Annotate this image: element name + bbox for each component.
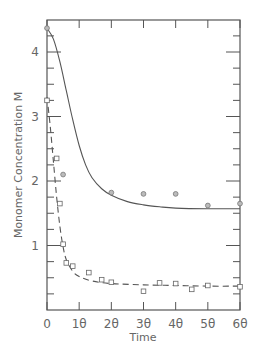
circle-marker — [45, 26, 50, 31]
x-tick-label: 3θ — [136, 317, 151, 331]
square-marker — [109, 280, 114, 285]
y-tick-label: 3 — [31, 110, 39, 124]
circle-marker — [61, 172, 66, 177]
y-tick-labels: 1234 — [31, 45, 39, 253]
fit-curves — [47, 28, 240, 286]
square-marker — [87, 270, 92, 275]
square-marker — [64, 261, 69, 266]
square-marker — [173, 281, 178, 286]
square-marker — [54, 156, 59, 161]
x-tick-label: 0 — [43, 317, 51, 331]
square-marker — [189, 287, 194, 292]
x-tick-label: 6θ — [233, 317, 248, 331]
circle-marker — [238, 201, 243, 206]
circle-marker — [205, 203, 210, 208]
chart: 01θ2θ3θ4θ5θ6θ 1234 Time Monomer Concentr… — [0, 0, 257, 355]
y-tick-label: 1 — [31, 239, 39, 253]
square-marker — [238, 284, 243, 289]
plot-frame — [47, 20, 240, 310]
x-tick-label: 5θ — [200, 317, 215, 331]
y-tick-label: 2 — [31, 174, 39, 188]
y-axis-ticks — [47, 36, 240, 294]
circle-marker — [173, 192, 178, 197]
square-marker — [206, 283, 211, 288]
circle-marker — [141, 192, 146, 197]
square-marker — [157, 281, 162, 286]
y-axis-title: Monomer Concentration M — [12, 92, 25, 238]
square-marker — [61, 242, 66, 247]
data-markers — [45, 26, 243, 294]
x-axis-ticks — [47, 20, 240, 310]
square-marker — [141, 289, 146, 294]
x-tick-labels: 01θ2θ3θ4θ5θ6θ — [43, 317, 247, 331]
x-tick-label: 2θ — [104, 317, 119, 331]
y-tick-label: 4 — [31, 45, 39, 59]
x-tick-label: 4θ — [168, 317, 183, 331]
square-marker — [70, 264, 75, 269]
circle-marker — [109, 190, 114, 195]
square-marker — [45, 98, 50, 103]
x-tick-label: 1θ — [72, 317, 87, 331]
square-marker — [58, 201, 63, 206]
x-axis-title: Time — [129, 331, 157, 344]
square-marker — [99, 277, 104, 282]
solid-fit-curve — [47, 28, 240, 209]
